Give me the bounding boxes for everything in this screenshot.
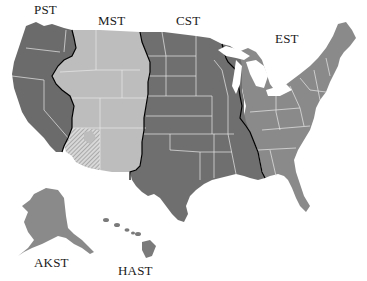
label-akst: AKST bbox=[34, 256, 69, 269]
zone-est bbox=[238, 22, 356, 212]
hawaii bbox=[103, 218, 156, 258]
label-cst: CST bbox=[176, 14, 200, 27]
label-est: EST bbox=[275, 32, 299, 45]
alaska bbox=[18, 188, 94, 256]
label-mst: MST bbox=[98, 14, 125, 27]
time-zone-map bbox=[0, 0, 367, 281]
label-hast: HAST bbox=[118, 264, 153, 277]
label-pst: PST bbox=[34, 3, 57, 16]
